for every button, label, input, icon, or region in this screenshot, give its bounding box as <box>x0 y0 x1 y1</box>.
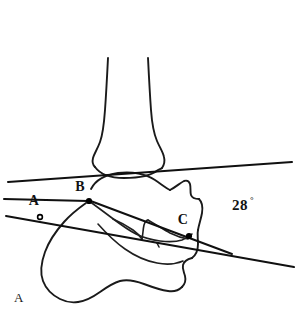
point-marker-c <box>186 233 192 239</box>
figure-root: A B C 28 ° A <box>0 0 301 320</box>
point-label-c: C <box>178 212 188 227</box>
panel-label: A <box>14 290 24 305</box>
point-label-a: A <box>29 193 40 208</box>
angle-value: 28 <box>232 197 248 213</box>
point-label-b: B <box>75 179 85 194</box>
figure-background <box>0 0 301 320</box>
point-marker-a <box>38 215 43 220</box>
caption-bleed <box>0 311 301 320</box>
degree-symbol-icon: ° <box>250 195 254 205</box>
point-marker-b <box>86 198 92 204</box>
ankle-tracing-drawing: A B C 28 ° A <box>0 0 301 320</box>
